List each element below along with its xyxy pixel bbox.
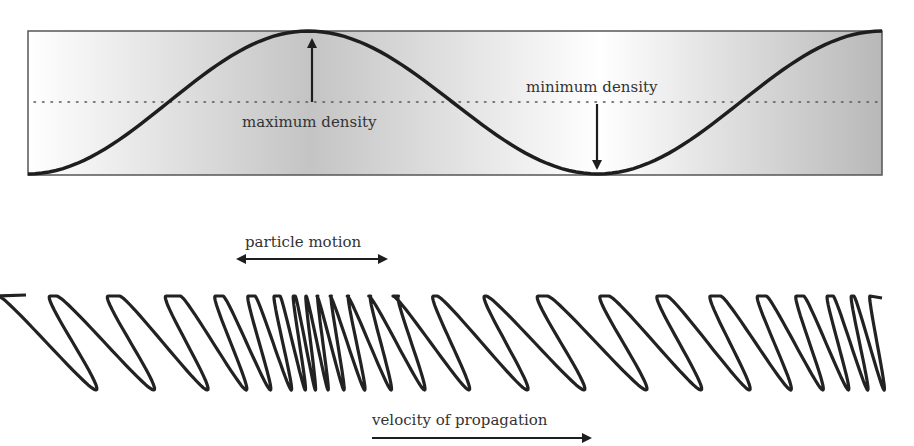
velocity-of-propagation-label: velocity of propagation [371, 411, 548, 429]
min-density-label: minimum density [526, 78, 658, 96]
particle-motion-label: particle motion [245, 233, 361, 251]
longitudinal-wave-diagram: maximum density minimum density particle… [0, 0, 914, 446]
spring-coil [0, 295, 884, 390]
density-panel: maximum density minimum density [28, 31, 882, 175]
max-density-label: maximum density [242, 113, 377, 131]
spring-panel: particle motion velocity of propagation [0, 233, 884, 438]
